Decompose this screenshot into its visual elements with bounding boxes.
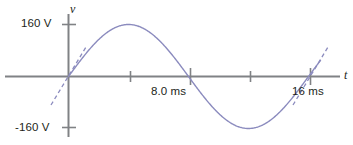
x-tick-label-half-period: 8.0 ms <box>151 86 186 98</box>
y-tick-label-positive-amplitude: 160 V <box>21 18 52 30</box>
y-tick-label-negative-amplitude: -160 V <box>15 122 49 134</box>
plot-canvas <box>0 0 353 145</box>
x-axis-variable-label: t <box>344 69 347 81</box>
y-axis-variable-label: v <box>70 3 75 15</box>
voltage-waveform-figure: v t 160 V -160 V 8.0 ms 16 ms <box>0 0 353 145</box>
x-tick-label-full-period: 16 ms <box>292 86 324 98</box>
